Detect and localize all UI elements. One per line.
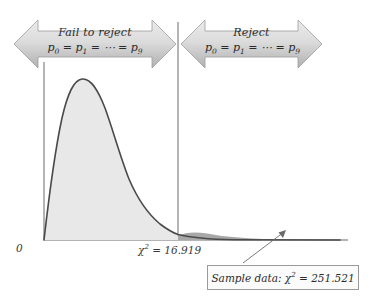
callout-value: 251.521 bbox=[311, 272, 354, 284]
critical-value-number: 16.919 bbox=[164, 244, 201, 256]
reject-band-arrow bbox=[181, 20, 322, 68]
critical-value-equals: = bbox=[149, 244, 164, 256]
callout-prefix: Sample data: bbox=[211, 272, 284, 284]
chi-square-hypothesis-test-figure: Fail to reject p0 = p1 = ⋯ = p9 Reject p… bbox=[0, 0, 371, 304]
callout-equals: = bbox=[296, 272, 311, 284]
fail-to-reject-band-arrow bbox=[14, 20, 176, 68]
critical-value-label: χ2 = 16.919 bbox=[138, 243, 201, 256]
chi-square-distribution-plot bbox=[0, 0, 371, 304]
sample-data-callout: Sample data: χ2 = 251.521 bbox=[207, 265, 359, 290]
fail-to-reject-region-fill bbox=[44, 79, 178, 240]
callout-leader-arrowhead bbox=[279, 230, 287, 238]
callout-leader-line bbox=[243, 232, 284, 263]
x-axis-origin-label: 0 bbox=[16, 242, 23, 254]
sample-data-callout-text: Sample data: χ2 = 251.521 bbox=[211, 271, 354, 284]
